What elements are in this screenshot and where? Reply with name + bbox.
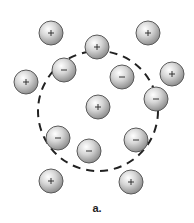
ion-diagram xyxy=(0,0,194,223)
negative-ion xyxy=(144,87,168,111)
positive-ion xyxy=(39,169,63,193)
positive-ion xyxy=(136,21,160,45)
negative-ion xyxy=(77,139,101,163)
positive-ion xyxy=(86,95,110,119)
ion-group xyxy=(14,21,184,194)
positive-ion xyxy=(119,170,143,194)
positive-ion xyxy=(14,70,38,94)
negative-ion xyxy=(52,58,76,82)
figure-label: a. xyxy=(0,202,194,214)
negative-ion xyxy=(110,65,134,89)
positive-ion xyxy=(85,35,109,59)
negative-ion xyxy=(46,126,70,150)
positive-ion xyxy=(160,62,184,86)
negative-ion xyxy=(124,128,148,152)
positive-ion xyxy=(39,21,63,45)
